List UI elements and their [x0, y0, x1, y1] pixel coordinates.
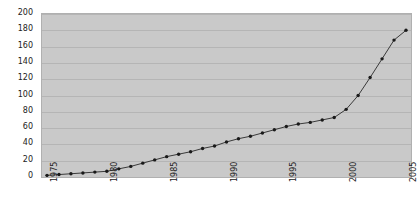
- data-point-marker: [273, 128, 276, 131]
- data-point-marker: [177, 152, 180, 155]
- y-axis-tick-label: 200: [0, 8, 33, 17]
- y-axis-tick-label: 180: [0, 24, 33, 33]
- data-point-marker: [213, 144, 216, 147]
- data-point-marker: [129, 165, 132, 168]
- x-axis-tick-label: 1980: [110, 162, 119, 182]
- data-point-marker: [201, 147, 204, 150]
- data-point-marker: [368, 76, 371, 79]
- x-axis-tick-label: 1990: [230, 162, 239, 182]
- x-axis-tick-label: 2000: [349, 162, 358, 182]
- data-point-marker: [321, 118, 324, 121]
- data-point-marker: [45, 174, 48, 177]
- data-point-marker: [392, 38, 395, 41]
- data-point-marker: [141, 161, 144, 164]
- data-point-marker: [356, 94, 359, 97]
- data-point-marker: [297, 122, 300, 125]
- y-axis-tick-label: 60: [0, 122, 33, 131]
- plot-area: [41, 13, 412, 178]
- data-point-marker: [225, 140, 228, 143]
- data-point-marker: [285, 125, 288, 128]
- y-axis-tick-label: 20: [0, 155, 33, 164]
- y-axis-tick-label: 160: [0, 41, 33, 50]
- y-axis-tick-label: 40: [0, 138, 33, 147]
- data-point-marker: [380, 57, 383, 60]
- data-point-marker: [261, 131, 264, 134]
- data-point-marker: [404, 29, 407, 32]
- data-point-marker: [81, 171, 84, 174]
- data-point-marker: [153, 158, 156, 161]
- y-axis-tick-label: 100: [0, 90, 33, 99]
- x-axis-tick-label: 1995: [289, 162, 298, 182]
- data-point-marker: [249, 135, 252, 138]
- y-axis-tick-label: 120: [0, 73, 33, 82]
- data-point-marker: [189, 150, 192, 153]
- x-axis-tick-label: 1985: [170, 162, 179, 182]
- data-point-marker: [165, 155, 168, 158]
- data-point-marker: [105, 170, 108, 173]
- x-axis-tick-label: 1975: [50, 162, 59, 182]
- data-point-marker: [344, 108, 347, 111]
- x-axis-tick-label: 2005: [409, 162, 418, 182]
- line-chart: 020406080100120140160180200 197519801985…: [0, 0, 420, 212]
- series-line: [47, 30, 406, 175]
- data-point-marker: [309, 121, 312, 124]
- data-series: [42, 14, 411, 177]
- data-point-marker: [69, 172, 72, 175]
- data-point-marker: [333, 116, 336, 119]
- y-axis-tick-labels: 020406080100120140160180200: [0, 0, 37, 212]
- y-axis-tick-label: 80: [0, 106, 33, 115]
- data-point-marker: [93, 170, 96, 173]
- y-axis-tick-label: 0: [0, 171, 33, 180]
- y-axis-tick-label: 140: [0, 57, 33, 66]
- data-point-marker: [237, 137, 240, 140]
